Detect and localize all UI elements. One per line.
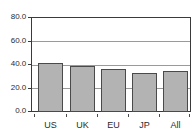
bar-jp [132, 73, 157, 112]
x-tick-label-us: US [44, 120, 57, 130]
x-axis: US UK EU JP All [31, 114, 191, 137]
y-tick-label-0: 0.0 [15, 107, 26, 115]
x-tick-mark-3 [128, 114, 129, 117]
y-axis: 80.0 60.0 40.0 20.0 0.0 [0, 0, 31, 137]
bar-eu [101, 69, 126, 112]
x-tick-mark-4 [159, 114, 160, 117]
x-tick-mark-2 [97, 114, 98, 117]
y-tick-label-80: 80.0 [11, 13, 26, 21]
bar-us [38, 63, 63, 112]
y-tick-label-20: 20.0 [11, 84, 26, 92]
y-tick-label-60: 60.0 [11, 37, 26, 45]
x-tick-label-uk: UK [76, 120, 89, 130]
x-tick-mark-5 [189, 114, 190, 117]
bar-all [163, 71, 188, 112]
x-tick-mark-0 [34, 114, 35, 117]
bar-uk [70, 66, 95, 112]
bars-layer [31, 17, 191, 112]
x-tick-label-all: All [170, 120, 180, 130]
x-tick-label-eu: EU [107, 120, 120, 130]
x-tick-mark-1 [66, 114, 67, 117]
y-tick-label-40: 40.0 [11, 60, 26, 68]
x-tick-label-jp: JP [139, 120, 150, 130]
bar-chart: 80.0 60.0 40.0 20.0 0.0 US UK EU JP A [0, 0, 196, 137]
